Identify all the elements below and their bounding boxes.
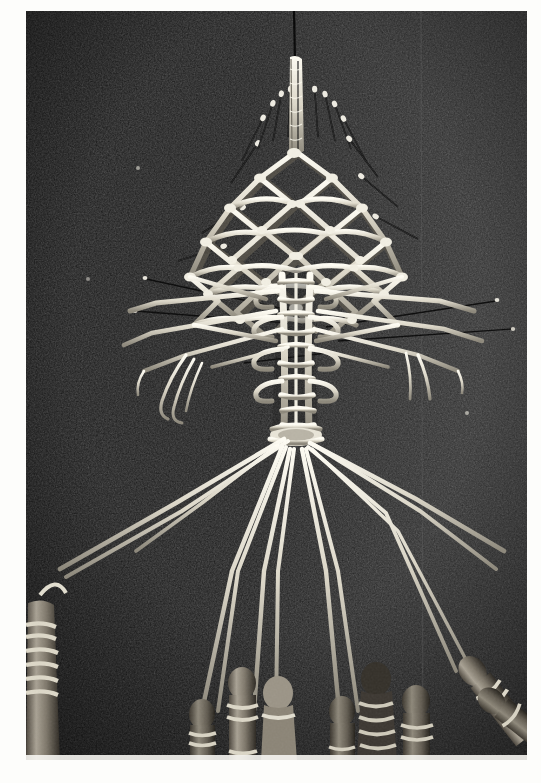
page-canvas <box>0 0 541 783</box>
photograph <box>26 11 527 760</box>
photograph-content <box>26 11 527 760</box>
halftone-overlay <box>26 11 527 760</box>
photo-bottom-edge <box>26 755 527 760</box>
